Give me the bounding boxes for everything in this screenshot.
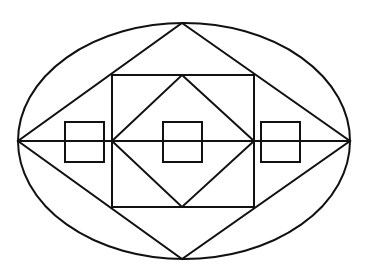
geometric-figure [0, 0, 370, 279]
